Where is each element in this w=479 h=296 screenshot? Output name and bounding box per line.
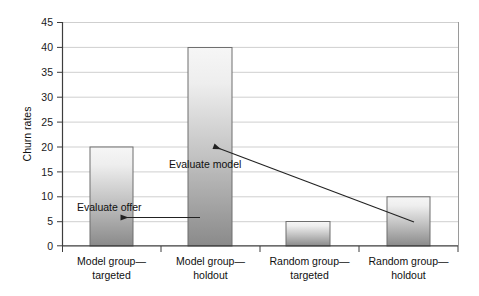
bar-random-group-targeted — [286, 222, 330, 247]
y-tick-label-15: 15 — [41, 166, 53, 178]
x-label-1-line1: Model group— — [176, 255, 245, 267]
evaluate-offer-label: Evaluate offer — [77, 201, 142, 213]
y-tick-label-20: 20 — [41, 141, 53, 153]
chart-svg: 45 40 35 30 25 20 15 10 5 0 Model group—… — [0, 0, 479, 296]
x-label-2-line2: targeted — [290, 269, 329, 281]
y-tick-label-35: 35 — [41, 66, 53, 78]
x-label-1-line2: holdout — [193, 269, 228, 281]
y-tick-label-5: 5 — [47, 215, 53, 227]
y-tick-label-30: 30 — [41, 91, 53, 103]
x-category-labels: Model group— targeted Model group— holdo… — [77, 255, 449, 281]
x-tick-marks — [63, 246, 459, 252]
y-tick-label-25: 25 — [41, 116, 53, 128]
x-label-0-line1: Model group— — [77, 255, 146, 267]
x-label-0-line2: targeted — [92, 269, 131, 281]
y-axis-title: Churn rates — [21, 107, 33, 162]
y-tick-labels: 45 40 35 30 25 20 15 10 5 0 — [41, 16, 53, 252]
evaluate-model-label: Evaluate model — [169, 158, 241, 170]
bar-model-group-targeted — [90, 147, 133, 246]
x-label-3-line1: Random group— — [369, 255, 449, 267]
y-tick-label-0: 0 — [47, 240, 53, 252]
y-tick-label-45: 45 — [41, 16, 53, 28]
x-label-2-line1: Random group— — [270, 255, 350, 267]
x-label-3-line2: holdout — [391, 269, 426, 281]
bar-model-group-holdout — [188, 48, 232, 247]
bar-random-group-holdout — [387, 197, 430, 246]
y-tick-marks — [57, 23, 62, 246]
y-tick-label-40: 40 — [41, 41, 53, 53]
churn-rates-bar-chart: 45 40 35 30 25 20 15 10 5 0 Model group—… — [0, 0, 479, 296]
y-tick-label-10: 10 — [41, 190, 53, 202]
